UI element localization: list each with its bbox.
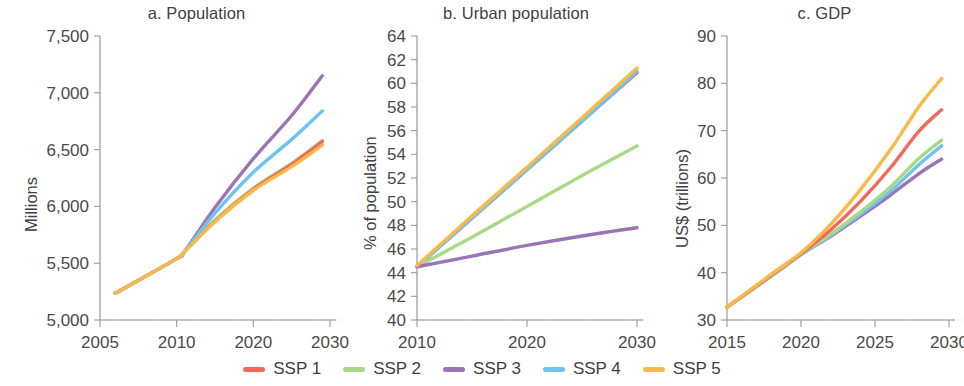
- series-line-ssp-5: [727, 79, 942, 308]
- legend-label: SSP 2: [373, 359, 421, 379]
- y-tick-label: 64: [387, 27, 406, 46]
- series-line-ssp-1: [727, 110, 942, 307]
- series-line-ssp-5: [115, 145, 322, 293]
- chart-panel-population: a. Population Millions 5,0005,5006,0006,…: [0, 0, 345, 350]
- legend-swatch-icon: [543, 367, 565, 372]
- legend-item-ssp-1[interactable]: SSP 1: [243, 359, 321, 379]
- y-tick-label: 7,000: [46, 84, 89, 103]
- x-tick-label: 2010: [398, 333, 436, 352]
- legend-item-ssp-2[interactable]: SSP 2: [343, 359, 421, 379]
- legend: SSP 1SSP 2SSP 3SSP 4SSP 5: [0, 352, 964, 386]
- y-tick-label: 30: [697, 311, 716, 330]
- y-tick-label: 52: [387, 169, 406, 188]
- x-tick-label: 2030: [930, 333, 964, 352]
- series-line-ssp-2: [417, 146, 637, 267]
- x-tick-label: 2020: [234, 333, 272, 352]
- y-tick-label: 7,500: [46, 27, 89, 46]
- panel-b-plot: 40424446485052545658606264201020202030: [345, 0, 657, 350]
- y-tick-label: 90: [697, 27, 716, 46]
- y-tick-label: 60: [697, 169, 716, 188]
- legend-item-ssp-4[interactable]: SSP 4: [543, 359, 621, 379]
- panel-a-plot: 5,0005,5006,0006,5007,0007,5002005201020…: [0, 0, 345, 350]
- legend-label: SSP 5: [673, 359, 721, 379]
- y-tick-label: 5,000: [46, 311, 89, 330]
- y-tick-label: 5,500: [46, 254, 89, 273]
- x-tick-label: 2005: [81, 333, 119, 352]
- y-tick-label: 50: [387, 193, 406, 212]
- legend-item-ssp-3[interactable]: SSP 3: [443, 359, 521, 379]
- y-tick-label: 6,000: [46, 197, 89, 216]
- y-tick-label: 50: [697, 216, 716, 235]
- legend-swatch-icon: [243, 367, 265, 372]
- x-tick-label: 2025: [856, 333, 894, 352]
- legend-label: SSP 4: [573, 359, 621, 379]
- y-tick-label: 46: [387, 240, 406, 259]
- chart-panel-gdp: c. GDP US$ (trillions) 30405060708090201…: [657, 0, 964, 350]
- y-tick-label: 6,500: [46, 141, 89, 160]
- legend-label: SSP 3: [473, 359, 521, 379]
- legend-swatch-icon: [343, 367, 365, 372]
- x-tick-label: 2030: [618, 333, 656, 352]
- chart-panel-urban-population: b. Urban population % of population 4042…: [345, 0, 657, 350]
- y-tick-label: 44: [387, 264, 406, 283]
- y-tick-label: 54: [387, 145, 406, 164]
- x-tick-label: 2015: [708, 333, 746, 352]
- series-line-ssp-5: [417, 68, 637, 266]
- x-tick-label: 2010: [158, 333, 196, 352]
- y-tick-label: 40: [387, 311, 406, 330]
- y-tick-label: 80: [697, 74, 716, 93]
- legend-swatch-icon: [643, 367, 665, 372]
- y-tick-label: 58: [387, 98, 406, 117]
- y-tick-label: 70: [697, 122, 716, 141]
- y-tick-label: 60: [387, 74, 406, 93]
- legend-label: SSP 1: [273, 359, 321, 379]
- legend-item-ssp-5[interactable]: SSP 5: [643, 359, 721, 379]
- legend-swatch-icon: [443, 367, 465, 372]
- y-tick-label: 56: [387, 122, 406, 141]
- y-tick-label: 62: [387, 51, 406, 70]
- y-tick-label: 48: [387, 216, 406, 235]
- series-line-ssp-3: [115, 76, 322, 294]
- panel-c-plot: 304050607080902015202020252030: [657, 0, 964, 350]
- ssp-scenarios-figure: a. Population Millions 5,0005,5006,0006,…: [0, 0, 964, 386]
- y-tick-label: 42: [387, 287, 406, 306]
- y-tick-label: 40: [697, 264, 716, 283]
- x-tick-label: 2020: [782, 333, 820, 352]
- x-tick-label: 2030: [311, 333, 349, 352]
- x-tick-label: 2020: [508, 333, 546, 352]
